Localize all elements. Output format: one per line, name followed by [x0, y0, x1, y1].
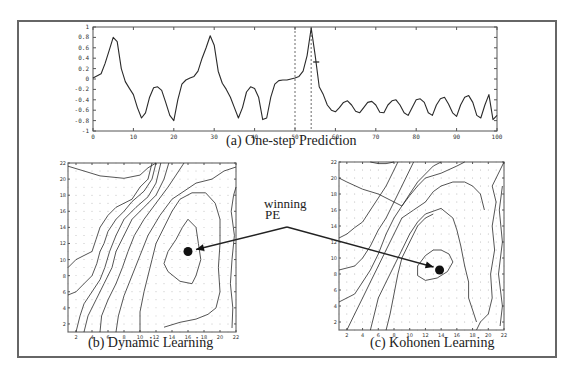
- contour-line: [140, 193, 220, 332]
- y-tick-label: -0.2: [75, 85, 90, 92]
- arrow-to-kohonen-winner: [287, 227, 434, 267]
- x-tick-label: 10: [130, 133, 138, 140]
- x-tick-label: 30: [211, 133, 219, 140]
- x-tick-label: 0: [91, 133, 95, 140]
- contour-line: [477, 162, 505, 330]
- y-tick-label: 0.4: [78, 54, 89, 61]
- x-tick-label: 2: [345, 332, 348, 338]
- y-tick-label: 6: [63, 289, 66, 295]
- y-tick-label: 0.6: [78, 44, 89, 51]
- contour-line: [347, 182, 485, 330]
- contour-line: [370, 208, 476, 330]
- x-tick-label: 22: [501, 332, 507, 338]
- contour-line: [100, 163, 184, 332]
- y-tick-label: -0.6: [75, 106, 90, 113]
- y-tick-label: 10: [60, 257, 66, 263]
- x-tick-label: 80: [413, 133, 421, 140]
- contour-line: [84, 163, 169, 332]
- one-step-prediction-plot: 010203040506070809010010.80.60.40.20-0.2…: [75, 23, 503, 140]
- y-tick-label: 4: [334, 303, 337, 309]
- y-tick-label: 6: [334, 287, 337, 293]
- y-tick-label: 20: [60, 176, 66, 182]
- y-tick-label: 14: [60, 224, 66, 230]
- y-tick-label: 22: [331, 159, 337, 165]
- contour-axes-box: [339, 162, 504, 330]
- contour-line: [499, 186, 503, 326]
- signal-line: [93, 28, 497, 121]
- winning-pe-dot: [435, 266, 444, 275]
- y-tick-label: 12: [60, 240, 66, 246]
- contour-line: [339, 162, 441, 302]
- y-tick-label: 14: [331, 223, 337, 229]
- y-tick-label: 0.8: [78, 33, 89, 40]
- y-tick-label: 8: [334, 271, 337, 277]
- caption-one-step-prediction: (a) One-step Prediction: [226, 133, 357, 149]
- contour-line: [339, 162, 414, 270]
- x-tick-label: 22: [233, 334, 239, 340]
- y-tick-label: 0.2: [78, 65, 89, 72]
- figure-canvas: 010203040506070809010010.80.60.40.20-0.2…: [0, 0, 573, 372]
- contour-line: [68, 163, 156, 295]
- y-tick-label: 20: [331, 175, 337, 181]
- contour-line: [339, 162, 398, 238]
- y-tick-label: 4: [63, 305, 66, 311]
- x-tick-label: 4: [361, 332, 364, 338]
- arrowhead-icon: [196, 244, 205, 251]
- contour-line: [230, 187, 236, 328]
- x-tick-label: 90: [453, 133, 461, 140]
- dynamic-learning-contour-plot: 246810121416182022246810121416182022: [60, 160, 240, 340]
- arrow-to-dynamic-winner: [196, 227, 287, 250]
- contour-line: [68, 163, 156, 178]
- y-tick-label: 22: [60, 160, 66, 166]
- x-tick-label: 100: [492, 133, 503, 140]
- y-tick-label: 18: [60, 192, 66, 198]
- kohonen-learning-contour-plot: 246810121416182022246810121416182022: [331, 159, 508, 338]
- contour-line: [418, 250, 453, 280]
- y-tick-label: -0.4: [75, 96, 90, 103]
- y-tick-label: 16: [60, 208, 66, 214]
- caption-dynamic-learning: (b) Dynamic Learning: [88, 335, 213, 351]
- y-tick-label: 2: [63, 321, 66, 327]
- y-tick-label: 18: [331, 191, 337, 197]
- contour-line: [164, 219, 201, 283]
- contour-line: [116, 167, 236, 332]
- x-tick-label: 70: [372, 133, 380, 140]
- caption-kohonen-learning: (c) Kohonen Learning: [370, 335, 494, 351]
- annotation-pe: PE: [265, 209, 280, 221]
- y-tick-label: 0: [85, 75, 89, 82]
- y-tick-label: 2: [334, 319, 337, 325]
- contour-line: [68, 163, 152, 268]
- y-tick-label: -0.8: [75, 117, 90, 124]
- winning-pe-dot: [184, 247, 193, 256]
- y-tick-label: -1: [82, 127, 90, 134]
- x-tick-label: 2: [74, 334, 77, 340]
- y-tick-label: 16: [331, 207, 337, 213]
- y-tick-label: 10: [331, 255, 337, 261]
- y-tick-label: 1: [85, 23, 89, 30]
- y-tick-label: 8: [63, 273, 66, 279]
- x-tick-label: 20: [217, 334, 223, 340]
- contour-line: [386, 214, 433, 330]
- x-tick-label: 20: [170, 133, 178, 140]
